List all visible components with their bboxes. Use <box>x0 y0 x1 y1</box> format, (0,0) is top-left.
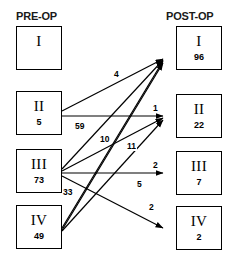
node-roman: III <box>31 157 47 172</box>
edge-label-pre3-post1: 59 <box>74 122 85 131</box>
edge-label-pre4-post2: 5 <box>136 180 143 189</box>
node-count: 22 <box>194 121 204 130</box>
node-roman: I <box>36 34 41 49</box>
node-post-op-iii[interactable]: III 7 <box>176 151 222 195</box>
edge-label-pre2-post1: 4 <box>113 70 120 79</box>
column-header-post-op: POST-OP <box>166 10 214 22</box>
edge-pre2-post1 <box>62 59 163 111</box>
node-roman: II <box>34 99 45 114</box>
edge-pre4-post2 <box>62 120 163 231</box>
node-roman: III <box>191 159 207 174</box>
node-count: 2 <box>196 233 201 242</box>
column-header-pre-op: PRE-OP <box>16 10 57 22</box>
node-post-op-iv[interactable]: IV 2 <box>176 206 222 250</box>
diagram-canvas: PRE-OP POST-OP I II 5 III 73 IV 49 <box>0 0 238 262</box>
edge-pre3-post4 <box>62 176 163 228</box>
node-pre-op-iv[interactable]: IV 49 <box>16 205 62 249</box>
edge-label-pre4-post1-b: 11 <box>126 142 137 151</box>
node-post-op-i[interactable]: I 96 <box>176 26 222 70</box>
edge-label-pre4-post1-a: 33 <box>62 188 73 197</box>
edge-label-pre3-post3: 2 <box>152 161 159 170</box>
node-post-op-ii[interactable]: II 22 <box>176 94 222 138</box>
node-count: 49 <box>34 232 44 241</box>
node-roman: IV <box>31 213 47 228</box>
edge-label-pre3-post2: 10 <box>99 135 110 144</box>
edge-label-pre2-post2: 1 <box>152 104 159 113</box>
node-roman: II <box>194 102 205 117</box>
node-count: 5 <box>36 118 41 127</box>
node-count: 7 <box>196 178 201 187</box>
node-pre-op-iii[interactable]: III 73 <box>16 149 62 193</box>
node-pre-op-ii[interactable]: II 5 <box>16 91 62 135</box>
node-count: 96 <box>194 53 204 62</box>
edge-label-pre3-post4: 2 <box>148 203 155 212</box>
node-roman: IV <box>191 214 207 229</box>
node-roman: I <box>196 34 201 49</box>
node-pre-op-i[interactable]: I <box>16 26 62 70</box>
node-count: 73 <box>34 176 44 185</box>
